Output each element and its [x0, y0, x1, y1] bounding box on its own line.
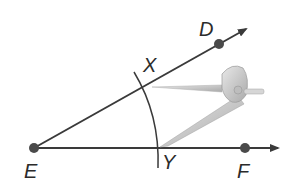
- point-f: [240, 143, 250, 153]
- arc-xy: [134, 72, 158, 168]
- point-e: [29, 143, 39, 153]
- point-d: [214, 39, 224, 49]
- label-x: X: [143, 55, 156, 75]
- label-d: D: [199, 19, 213, 39]
- compass-icon: [152, 66, 264, 147]
- label-f: F: [237, 161, 249, 181]
- diagram-canvas: [0, 0, 298, 190]
- label-e: E: [24, 161, 37, 181]
- label-y: Y: [162, 152, 175, 172]
